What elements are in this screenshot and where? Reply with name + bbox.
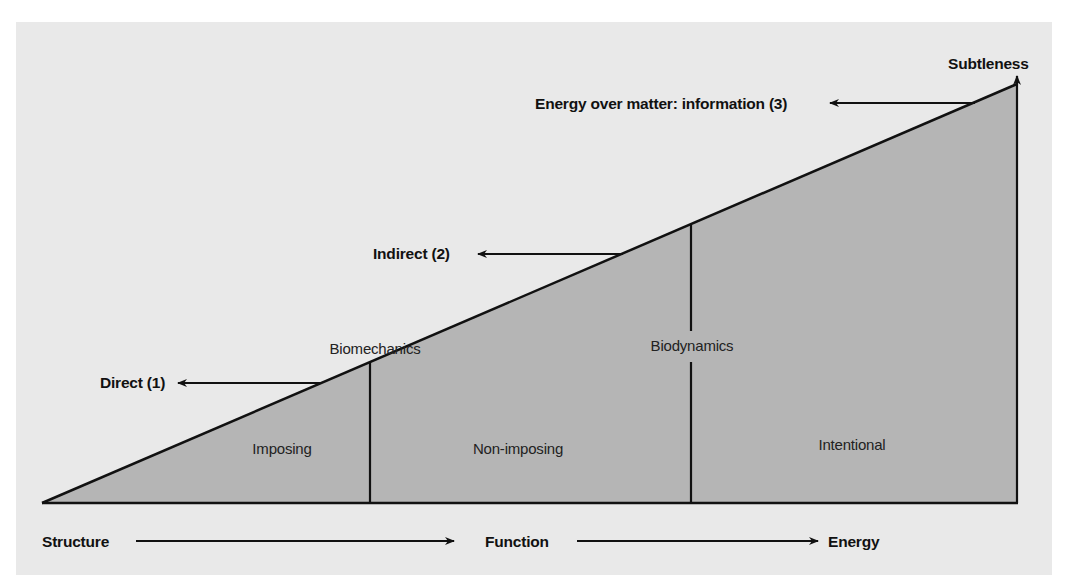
indirect-level-label: Indirect (2) (373, 245, 450, 263)
structure-axis-label: Structure (42, 533, 109, 551)
direct-level-label: Direct (1) (100, 374, 165, 392)
energy-axis-label: Energy (828, 533, 879, 551)
biodynamics-label: Biodynamics (651, 337, 734, 355)
non-imposing-region-label: Non-imposing (473, 440, 563, 458)
function-axis-label: Function (485, 533, 549, 551)
subtleness-triangle-diagram (0, 0, 1074, 578)
biomechanics-label: Biomechanics (330, 340, 421, 358)
imposing-region-label: Imposing (252, 440, 311, 458)
information-level-label: Energy over matter: information (3) (535, 95, 787, 113)
subtleness-label: Subtleness (948, 55, 1029, 73)
intentional-region-label: Intentional (818, 436, 885, 454)
